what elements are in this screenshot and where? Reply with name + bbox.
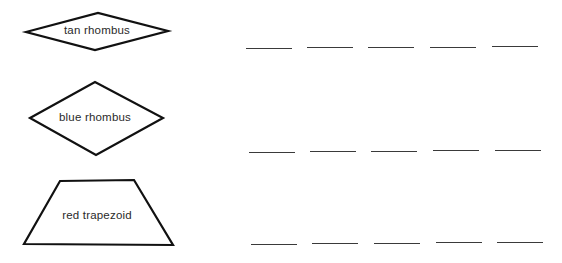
answer-blank[interactable] — [433, 150, 479, 151]
red-trapezoid-label: red trapezoid — [62, 209, 132, 221]
answer-blank[interactable] — [436, 242, 482, 243]
answer-blank[interactable] — [430, 47, 476, 48]
answer-blank[interactable] — [492, 46, 538, 47]
tan-rhombus-label: tan rhombus — [64, 24, 130, 36]
answer-blank[interactable] — [251, 244, 297, 245]
answer-blank[interactable] — [371, 151, 417, 152]
blue-rhombus-label: blue rhombus — [59, 111, 131, 123]
answer-blank[interactable] — [497, 242, 543, 243]
answer-blank[interactable] — [310, 151, 356, 152]
answer-blank[interactable] — [312, 243, 358, 244]
answer-blank[interactable] — [249, 152, 295, 153]
answer-blank[interactable] — [495, 150, 541, 151]
answer-blank[interactable] — [374, 243, 420, 244]
answer-blank[interactable] — [246, 48, 292, 49]
shapes-canvas — [0, 0, 562, 263]
answer-blank[interactable] — [307, 47, 353, 48]
answer-blank[interactable] — [368, 47, 414, 48]
